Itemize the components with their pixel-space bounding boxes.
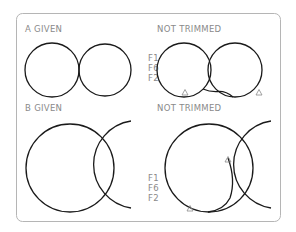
panel-a-result-title: NOT TRIMMED	[157, 24, 222, 34]
panel-b-result: NOT TRIMMED F1 F6 F2	[148, 103, 271, 212]
panel-b-result-title: NOT TRIMMED	[157, 103, 222, 113]
arc-b	[94, 121, 131, 208]
circle-a-right	[79, 44, 131, 96]
circle-a2-right	[208, 43, 262, 97]
triangle-marker-a2	[256, 90, 262, 96]
circle-b2-large	[165, 124, 253, 212]
circle-a2-left	[157, 43, 211, 97]
circle-a-left	[25, 43, 79, 97]
panel-a-given-title: A GIVEN	[25, 24, 62, 34]
label-f6-b: F6	[148, 183, 159, 193]
panel-b-given-title: B GIVEN	[25, 103, 62, 113]
fillet-b	[208, 158, 233, 212]
label-f2-b: F2	[148, 193, 159, 203]
panel-a-given: A GIVEN	[25, 24, 131, 97]
panel-b-given: B GIVEN	[25, 103, 131, 212]
label-f1: F1	[148, 53, 159, 63]
panel-a-result: NOT TRIMMED F1 F6 F2	[148, 24, 262, 97]
label-f1-b: F1	[148, 173, 159, 183]
fillet-diagram: A GIVEN NOT TRIMMED F1 F6 F2 B GIVEN NOT…	[0, 0, 296, 232]
triangle-marker-a1	[182, 90, 188, 96]
circle-b-large	[26, 124, 114, 212]
